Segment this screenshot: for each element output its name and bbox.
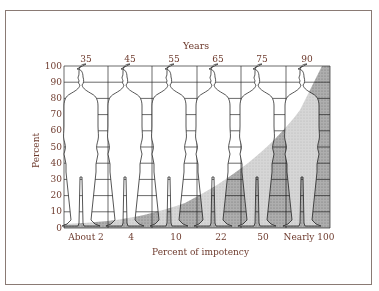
y-tick: 80 [40, 94, 62, 103]
y-tick: 30 [40, 175, 62, 184]
silhouette-35 [62, 64, 100, 226]
y-tick: 40 [40, 159, 62, 168]
y-axis-label: Percent [32, 133, 41, 168]
y-tick: 20 [40, 191, 62, 200]
silhouette-55 [150, 64, 188, 226]
x-axis-label: Percent of impotency [152, 248, 249, 257]
y-tick: 0 [40, 224, 62, 233]
y-tick: 50 [40, 143, 62, 152]
impotency-label: Nearly 100 [279, 233, 339, 242]
y-tick: 10 [40, 207, 62, 216]
silhouette-45 [106, 64, 144, 226]
y-tick: 70 [40, 110, 62, 119]
y-tick: 60 [40, 126, 62, 135]
chart-title: Years [183, 41, 209, 51]
year-label: 90 [277, 55, 337, 64]
y-tick: 100 [40, 62, 62, 71]
y-tick: 90 [40, 78, 62, 87]
